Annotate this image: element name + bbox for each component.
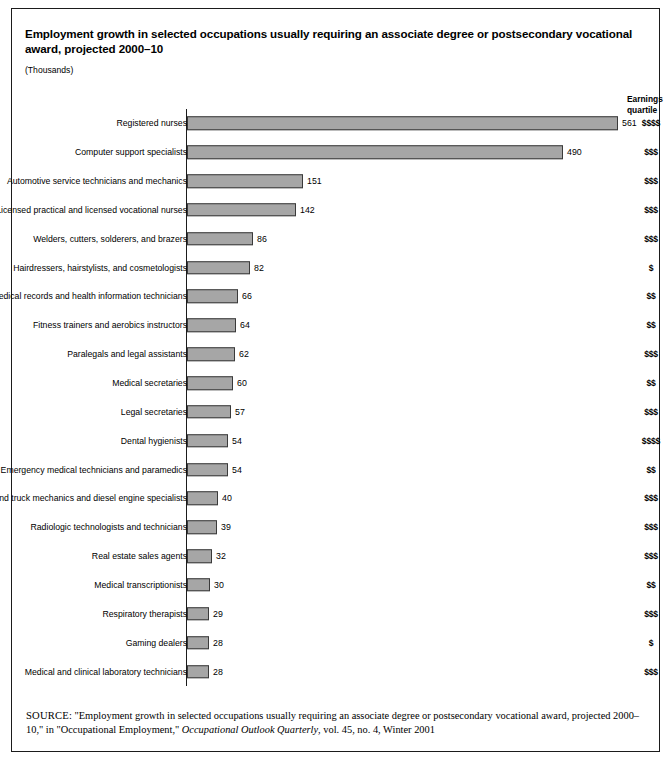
bar <box>187 463 228 477</box>
category-label: Registered nurses <box>0 118 187 128</box>
earnings-quartile-value: $$$ <box>627 176 672 186</box>
category-label: Respiratory therapists <box>0 609 187 619</box>
earnings-quartile-value: $$$$ <box>627 118 672 128</box>
category-label: Medical secretaries <box>0 378 187 388</box>
bar <box>187 492 218 506</box>
bar-value-label: 60 <box>237 378 247 388</box>
bar-value-label: 32 <box>216 551 226 561</box>
bar <box>187 319 236 333</box>
category-label: Hairdressers, hairstylists, and cosmetol… <box>0 262 187 272</box>
bar <box>187 665 209 679</box>
bar <box>187 405 231 419</box>
bar-row: Medical transcriptionists30$$ <box>12 571 661 600</box>
bar-value-label: 28 <box>213 638 223 648</box>
bar-value-label: 29 <box>213 609 223 619</box>
category-label: Automotive service technicians and mecha… <box>0 176 187 186</box>
earnings-quartile-value: $$$ <box>627 234 672 244</box>
bar <box>187 434 228 448</box>
bar-row: Medical secretaries60$$ <box>12 369 661 398</box>
bar-row: Registered nurses561$$$$ <box>12 109 661 138</box>
category-label: Real estate sales agents <box>0 551 187 561</box>
category-label: Licensed practical and licensed vocation… <box>0 205 187 215</box>
bar-row: Automotive service technicians and mecha… <box>12 167 661 196</box>
category-label: Dental hygienists <box>0 436 187 446</box>
bar-row: Emergency medical technicians and parame… <box>12 455 661 484</box>
source-note: SOURCE: "Employment growth in selected o… <box>26 709 646 736</box>
bar <box>187 174 303 188</box>
source-text-part2: , vol. 45, no. 4, Winter 2001 <box>318 724 435 735</box>
earnings-quartile-value: $$$ <box>627 609 672 619</box>
bar-row: Gaming dealers28$ <box>12 628 661 657</box>
category-label: Computer support specialists <box>0 147 187 157</box>
earnings-quartile-value: $$$ <box>627 147 672 157</box>
bar-value-label: 82 <box>254 263 264 273</box>
bar <box>187 549 212 563</box>
bar-row: Paralegals and legal assistants62$$$ <box>12 340 661 369</box>
bar <box>187 607 209 621</box>
category-label: Legal secretaries <box>0 407 187 417</box>
earnings-quartile-value: $$$ <box>627 205 672 215</box>
bar-value-label: 62 <box>239 349 249 359</box>
source-keyword: SOURCE <box>26 710 69 721</box>
bar-row: Dental hygienists54$$$$ <box>12 426 661 455</box>
bar-row: Bus and truck mechanics and diesel engin… <box>12 484 661 513</box>
bar-row: Legal secretaries57$$$ <box>12 398 661 427</box>
bar <box>187 347 235 361</box>
bar-row: Licensed practical and licensed vocation… <box>12 196 661 225</box>
plot-area: Registered nurses561$$$$Computer support… <box>12 9 661 753</box>
bar-value-label: 66 <box>242 291 252 301</box>
earnings-quartile-value: $$ <box>627 580 672 590</box>
earnings-quartile-value: $$$ <box>627 551 672 561</box>
bar-value-label: 57 <box>235 407 245 417</box>
bar <box>187 290 238 304</box>
bar-value-label: 28 <box>213 667 223 677</box>
category-label: Bus and truck mechanics and diesel engin… <box>0 493 187 503</box>
bar <box>187 376 233 390</box>
bar <box>187 578 210 592</box>
bar-value-label: 54 <box>232 465 242 475</box>
category-label: Emergency medical technicians and parame… <box>0 464 187 474</box>
bar-value-label: 142 <box>300 205 315 215</box>
earnings-quartile-value: $$ <box>627 378 672 388</box>
bar-value-label: 490 <box>567 147 582 157</box>
category-label: Radiologic technologists and technicians <box>0 522 187 532</box>
bar-row: Computer support specialists490$$$ <box>12 138 661 167</box>
earnings-quartile-value: $$$ <box>627 667 672 677</box>
bar <box>187 636 209 650</box>
bar-value-label: 39 <box>221 522 231 532</box>
category-label: Fitness trainers and aerobics instructor… <box>0 320 187 330</box>
category-label: Welders, cutters, solderers, and brazers <box>0 234 187 244</box>
bar <box>187 117 618 131</box>
bar <box>187 232 253 246</box>
bar-row: Medical records and health information t… <box>12 282 661 311</box>
earnings-quartile-value: $$$ <box>627 407 672 417</box>
bar-value-label: 64 <box>240 320 250 330</box>
bar-value-label: 54 <box>232 436 242 446</box>
earnings-quartile-value: $$$$ <box>627 436 672 446</box>
earnings-quartile-value: $ <box>627 638 672 648</box>
bar-row: Radiologic technologists and technicians… <box>12 513 661 542</box>
earnings-quartile-value: $$ <box>627 291 672 301</box>
earnings-quartile-value: $$$ <box>627 349 672 359</box>
earnings-quartile-value: $ <box>627 263 672 273</box>
earnings-quartile-value: $$$ <box>627 522 672 532</box>
bar-value-label: 40 <box>222 493 232 503</box>
bar <box>187 261 250 275</box>
category-label: Medical and clinical laboratory technici… <box>0 666 187 676</box>
source-publication-title: Occupational Outlook Quarterly <box>182 724 318 735</box>
bar <box>187 145 563 159</box>
earnings-quartile-value: $$$ <box>627 493 672 503</box>
bar-value-label: 86 <box>257 234 267 244</box>
category-label: Medical transcriptionists <box>0 580 187 590</box>
bar-row: Respiratory therapists29$$$ <box>12 599 661 628</box>
bar-row: Hairdressers, hairstylists, and cosmetol… <box>12 253 661 282</box>
bar-row: Welders, cutters, solderers, and brazers… <box>12 224 661 253</box>
bar-value-label: 151 <box>307 176 322 186</box>
bar-row: Fitness trainers and aerobics instructor… <box>12 311 661 340</box>
figure-box: Employment growth in selected occupation… <box>11 8 660 752</box>
bar-row: Medical and clinical laboratory technici… <box>12 657 661 686</box>
earnings-quartile-value: $$ <box>627 320 672 330</box>
category-label: Gaming dealers <box>0 638 187 648</box>
category-label: Medical records and health information t… <box>0 291 187 301</box>
category-label: Paralegals and legal assistants <box>0 349 187 359</box>
